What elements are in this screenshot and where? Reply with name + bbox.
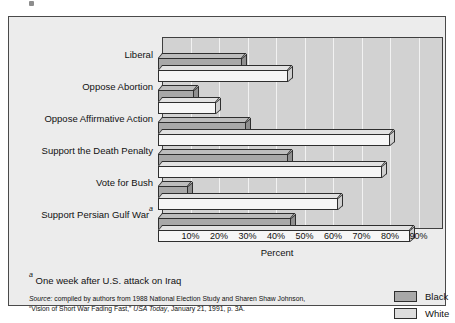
legend-item-black[interactable]: Black bbox=[394, 289, 455, 306]
category-label-text: Oppose Affirmative Action bbox=[44, 113, 153, 124]
source-line-2-post: , January 21, 1991, p. 3A. bbox=[167, 305, 245, 312]
x-tick-60: 60% bbox=[324, 231, 342, 241]
bar-side-face bbox=[288, 66, 293, 82]
category-label-text: Support the Death Penalty bbox=[42, 145, 153, 156]
bar-front-face bbox=[158, 166, 382, 178]
category-axis-labels: Liberal Oppose Abortion Oppose Affirmati… bbox=[9, 25, 153, 225]
bar-front-face bbox=[158, 70, 288, 82]
source-label: Source: bbox=[29, 295, 52, 302]
figure-panel: Liberal Oppose Abortion Oppose Affirmati… bbox=[8, 16, 446, 306]
legend-label-black: Black bbox=[425, 291, 448, 302]
chart-legend: Black White bbox=[394, 289, 455, 323]
category-label-text: Oppose Abortion bbox=[82, 81, 153, 92]
category-label-text: Support Persian Gulf War bbox=[41, 209, 149, 220]
category-label-oppose-abortion: Oppose Abortion bbox=[82, 81, 153, 92]
category-label-text: Vote for Bush bbox=[96, 177, 153, 188]
legend-item-white[interactable]: White bbox=[394, 306, 455, 323]
legend-label-white: White bbox=[425, 308, 449, 319]
legend-swatch-black-icon bbox=[394, 291, 417, 302]
x-tick-80: 80% bbox=[381, 231, 399, 241]
source-line-1: compiled by authors from 1988 National E… bbox=[52, 295, 305, 302]
source-line-2-pre: “Vision of Short War Fading Fast,” bbox=[29, 305, 133, 312]
bar-front-face bbox=[158, 102, 216, 114]
x-tick-30: 30% bbox=[238, 231, 256, 241]
bar-oppose-abortion-white bbox=[158, 102, 216, 114]
bar-front-face bbox=[158, 198, 338, 210]
footnote-text: One week after U.S. attack on Iraq bbox=[36, 275, 182, 286]
x-tick-50: 50% bbox=[295, 231, 313, 241]
bar-side-face bbox=[216, 98, 221, 114]
legend-swatch-white-icon bbox=[394, 308, 417, 319]
category-label-text: Liberal bbox=[124, 49, 153, 60]
x-axis-title: Percent bbox=[261, 247, 294, 258]
bar-vote-for-bush-white bbox=[158, 198, 338, 210]
category-label-oppose-affirmative-action: Oppose Affirmative Action bbox=[44, 113, 153, 124]
x-tick-90: 90% bbox=[409, 231, 427, 241]
category-label-support-the-death-penalty: Support the Death Penalty bbox=[42, 145, 153, 156]
x-tick-10: 10% bbox=[181, 231, 199, 241]
category-label-liberal: Liberal bbox=[124, 49, 153, 60]
footnote-marker-a: a bbox=[29, 271, 33, 278]
bar-oppose-affirmative-action-white bbox=[158, 134, 390, 146]
bar-liberal-white bbox=[158, 70, 288, 82]
gridline-90 bbox=[419, 38, 420, 228]
source-publication: USA Today bbox=[133, 305, 167, 312]
bar-side-face bbox=[390, 130, 395, 146]
x-axis-tick-labels: 10% 20% 30% 40% 50% 60% 70% 80% 90% bbox=[162, 231, 455, 245]
category-label-vote-for-bush: Vote for Bush bbox=[96, 177, 153, 188]
x-tick-70: 70% bbox=[352, 231, 370, 241]
bar-support-the-death-penalty-white bbox=[158, 166, 382, 178]
bar-side-face bbox=[382, 162, 387, 178]
footnote-marker-a: a bbox=[149, 205, 153, 212]
chart-source-note: Source: compiled by authors from 1988 Na… bbox=[29, 294, 349, 314]
bar-side-face bbox=[338, 194, 343, 210]
plot-area bbox=[162, 37, 443, 229]
category-label-support-persian-gulf-war: Support Persian Gulf Wara bbox=[41, 209, 153, 220]
figure-top-mark bbox=[29, 1, 34, 6]
x-tick-40: 40% bbox=[267, 231, 285, 241]
bar-front-face bbox=[158, 134, 390, 146]
chart-footnote: a One week after U.S. attack on Iraq bbox=[29, 275, 181, 286]
x-tick-20: 20% bbox=[210, 231, 228, 241]
